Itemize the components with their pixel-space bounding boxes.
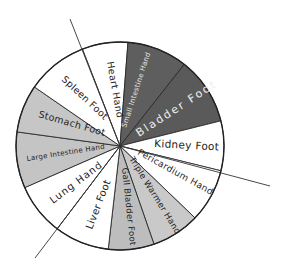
meridian-pie-diagram: Heart Hand Small Intestine Hand Bladder … [0, 0, 285, 278]
